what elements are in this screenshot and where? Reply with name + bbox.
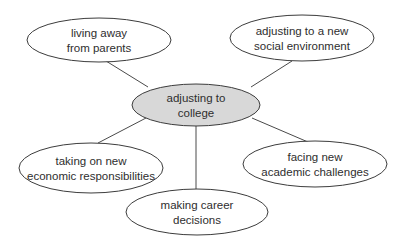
node-center-label-line: adjusting to — [167, 92, 226, 104]
center-node: adjusting tocollege — [132, 84, 260, 126]
node-bottom-left-ellipse — [19, 143, 163, 193]
spider-diagram: living awayfrom parentsadjusting to a ne… — [0, 0, 407, 246]
node-top-right-ellipse — [230, 15, 374, 61]
node-center-ellipse — [132, 84, 260, 126]
node-top-right-label-line: adjusting to a new — [256, 25, 349, 37]
node-bottom-label-line: making career — [161, 199, 234, 211]
node-top-left-label-line: from parents — [67, 42, 132, 54]
node-top-left-label-line: living away — [71, 27, 127, 39]
node-bottom-label-line: decisions — [173, 214, 221, 226]
node-bottom-right: facing newacademic challenges — [243, 141, 387, 187]
node-bottom-right-label-line: academic challenges — [261, 166, 369, 178]
node-top-right-label-line: social environment — [254, 40, 351, 52]
edge-top-left — [106, 61, 148, 87]
node-bottom-left-label-line: economic responsibilities — [27, 170, 155, 182]
node-bottom-right-ellipse — [243, 141, 387, 187]
node-top-right: adjusting to a newsocial environment — [230, 15, 374, 61]
edge-bottom-left — [98, 118, 146, 143]
node-center-label-line: college — [178, 107, 214, 119]
edge-bottom-right — [252, 118, 308, 142]
node-center: adjusting tocollege — [132, 84, 260, 126]
node-bottom-left: taking on neweconomic responsibilities — [19, 143, 163, 193]
edge-top-right — [251, 61, 292, 87]
node-bottom: making careerdecisions — [126, 189, 268, 235]
node-bottom-ellipse — [126, 189, 268, 235]
node-bottom-right-label-line: facing new — [288, 151, 344, 163]
node-bottom-left-label-line: taking on new — [56, 155, 128, 167]
node-top-left-ellipse — [27, 18, 171, 62]
node-top-left: living awayfrom parents — [27, 18, 171, 62]
